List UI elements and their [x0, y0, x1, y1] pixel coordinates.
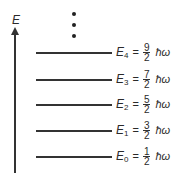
- arrow-up-icon: [11, 27, 19, 35]
- numerator: 5: [143, 95, 151, 105]
- denominator: 2: [144, 131, 150, 140]
- level-label: E2= 52 ħω: [116, 93, 170, 115]
- equals: =: [132, 98, 138, 110]
- dot-icon: [72, 12, 76, 16]
- unit: ħω: [155, 150, 170, 162]
- numerator: 1: [143, 147, 151, 157]
- level-label: E4= 92 ħω: [116, 41, 170, 63]
- equals: =: [132, 73, 138, 85]
- level-line: [36, 79, 112, 81]
- numerator: 7: [143, 70, 151, 80]
- unit: ħω: [155, 98, 170, 110]
- level-label: E0= 12 ħω: [116, 145, 170, 167]
- fraction: 12: [143, 147, 151, 166]
- level-label: E3= 72 ħω: [116, 68, 170, 90]
- energy-symbol: E: [116, 123, 124, 137]
- level-line: [36, 130, 112, 132]
- level-line: [36, 156, 112, 158]
- unit: ħω: [155, 124, 170, 136]
- energy-symbol: E: [116, 149, 124, 163]
- denominator: 2: [144, 80, 150, 89]
- dot-icon: [72, 34, 76, 38]
- axis-line: [14, 32, 16, 173]
- unit: ħω: [155, 73, 170, 85]
- fraction: 32: [143, 121, 151, 140]
- equals: =: [132, 46, 138, 58]
- energy-symbol: E: [116, 45, 124, 59]
- denominator: 2: [144, 157, 150, 166]
- equals: =: [132, 150, 138, 162]
- subscript: 1: [124, 129, 128, 138]
- fraction: 92: [143, 43, 151, 62]
- subscript: 0: [124, 155, 128, 164]
- level-line: [36, 52, 112, 54]
- equals: =: [132, 124, 138, 136]
- numerator: 3: [143, 121, 151, 131]
- dot-icon: [72, 23, 76, 27]
- subscript: 3: [124, 78, 128, 87]
- energy-symbol: E: [116, 97, 124, 111]
- level-line: [36, 104, 112, 106]
- fraction: 72: [143, 70, 151, 89]
- denominator: 2: [144, 105, 150, 114]
- level-label: E1= 32 ħω: [116, 119, 170, 141]
- numerator: 9: [143, 43, 151, 53]
- denominator: 2: [144, 53, 150, 62]
- subscript: 4: [124, 51, 128, 60]
- unit: ħω: [155, 46, 170, 58]
- energy-symbol: E: [116, 72, 124, 86]
- fraction: 52: [143, 95, 151, 114]
- subscript: 2: [124, 103, 128, 112]
- axis-label: E: [12, 13, 20, 27]
